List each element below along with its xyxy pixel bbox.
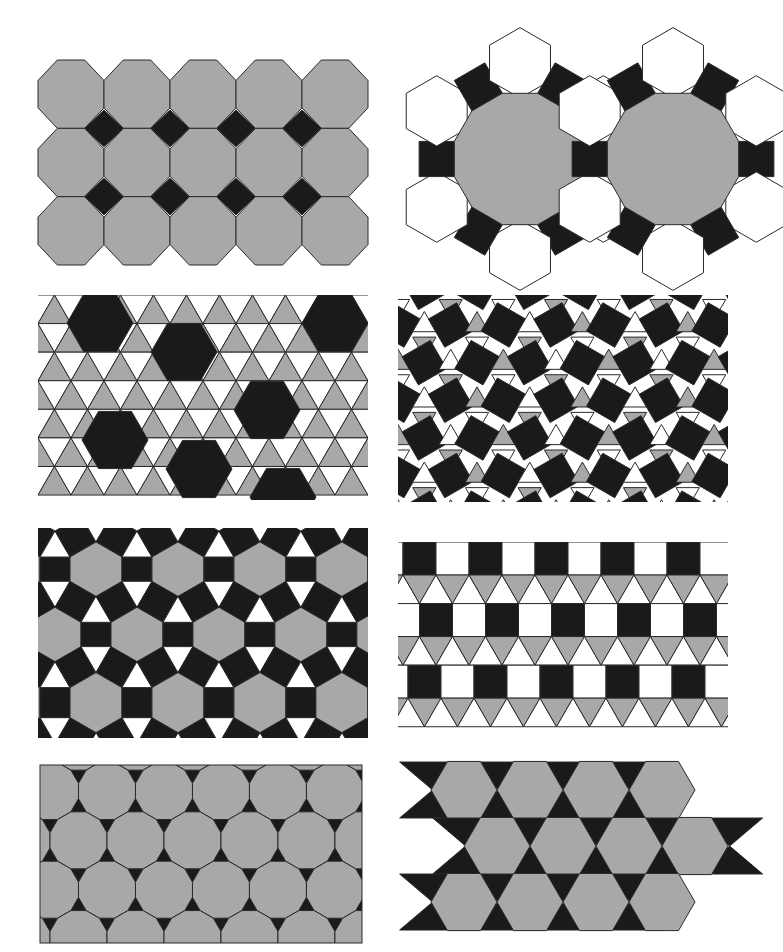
- tiling-panel-trihexagonal: [398, 762, 720, 942]
- tiling-panel-hexagon-triangle: [38, 295, 368, 500]
- tiling-panel-dodecagon-hexagon-square: [398, 50, 773, 268]
- tiling-panel-elongated-triangular: [398, 542, 728, 734]
- tiling-panel-truncated-hexagonal: [40, 765, 362, 943]
- tiling-panel-octagon-square: [38, 60, 368, 265]
- tiling-panel-rhombitrihexagonal: [38, 528, 368, 738]
- tiling-panel-snub-square: [398, 295, 728, 502]
